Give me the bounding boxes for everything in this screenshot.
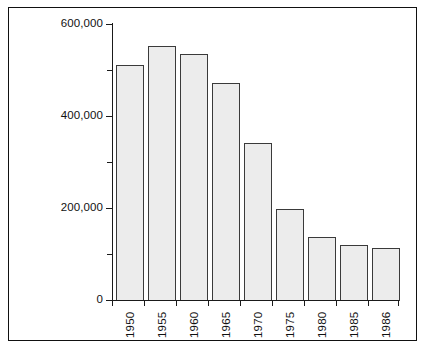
y-axis-tick-labels: 0 200,000 400,000 600,000 — [0, 0, 103, 351]
y-tick-label-400000: 400,000 — [61, 109, 103, 121]
x-tick-mark-8 — [368, 300, 369, 306]
x-tick-label-1965: 1965 — [220, 312, 232, 338]
y-tick-mark-500000 — [107, 70, 112, 71]
x-tick-label-1980: 1980 — [316, 312, 328, 338]
x-tick-label-1955: 1955 — [156, 312, 168, 338]
y-tick-mark-400000 — [106, 116, 112, 117]
y-tick-mark-600000 — [106, 24, 112, 25]
y-tick-label-200000: 200,000 — [61, 201, 103, 213]
bar-1950 — [116, 65, 144, 301]
x-tick-label-1960: 1960 — [188, 312, 200, 338]
bar-1955 — [148, 46, 176, 301]
x-tick-label-1950: 1950 — [124, 312, 136, 338]
y-axis-line — [112, 23, 113, 301]
x-tick-mark-4 — [240, 300, 241, 306]
x-tick-mark-1 — [144, 300, 145, 306]
x-tick-label-1975: 1975 — [284, 312, 296, 338]
bar-1960 — [180, 54, 208, 301]
x-tick-label-1970: 1970 — [252, 312, 264, 338]
x-axis-line — [111, 300, 399, 301]
x-tick-mark-0 — [112, 300, 113, 306]
figure-canvas: Number of Resident-Patients at Year's En… — [0, 0, 429, 351]
bar-1965 — [212, 83, 240, 301]
y-tick-label-600000: 600,000 — [61, 17, 103, 29]
bar-1970 — [244, 143, 272, 301]
x-tick-mark-2 — [176, 300, 177, 306]
x-tick-mark-3 — [208, 300, 209, 306]
x-tick-mark-7 — [336, 300, 337, 306]
x-tick-label-1985: 1985 — [348, 312, 360, 338]
bar-1980 — [308, 237, 336, 301]
bar-1985 — [340, 245, 368, 301]
y-tick-label-0: 0 — [97, 293, 104, 305]
y-tick-mark-300000 — [107, 162, 112, 163]
bar-1986 — [372, 248, 400, 301]
y-tick-mark-200000 — [106, 208, 112, 209]
x-tick-mark-5 — [272, 300, 273, 306]
x-tick-mark-9 — [398, 300, 399, 306]
x-tick-mark-6 — [304, 300, 305, 306]
x-tick-label-1986: 1986 — [380, 312, 392, 338]
bar-1975 — [276, 209, 304, 301]
y-tick-mark-100000 — [107, 254, 112, 255]
